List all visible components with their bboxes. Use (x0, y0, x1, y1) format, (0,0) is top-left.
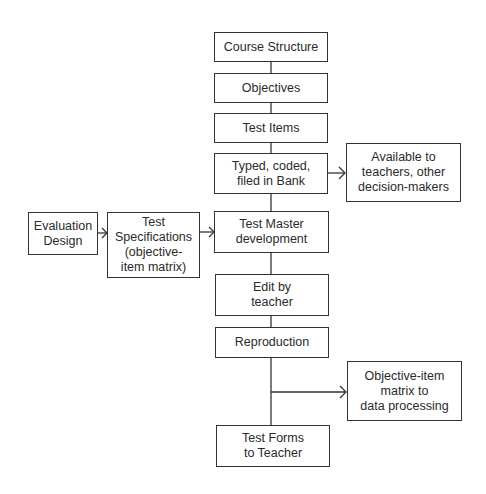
node-available-to: Available to teachers, other decision-ma… (346, 143, 461, 202)
node-reproduction: Reproduction (215, 327, 329, 358)
node-test-specifications: Test Specifications (objective- item mat… (107, 212, 200, 278)
node-course-structure: Course Structure (214, 32, 328, 62)
node-test-forms: Test Forms to Teacher (216, 425, 330, 467)
node-test-master: Test Master development (214, 211, 329, 253)
node-test-items: Test Items (214, 113, 328, 143)
node-evaluation-design: Evaluation Design (28, 212, 98, 255)
node-objectives: Objectives (214, 73, 328, 103)
node-edit-by-teacher: Edit by teacher (215, 274, 329, 316)
node-objective-item-matrix: Objective-item matrix to data processing (347, 361, 462, 421)
node-typed-coded: Typed, coded, filed in Bank (214, 153, 328, 194)
